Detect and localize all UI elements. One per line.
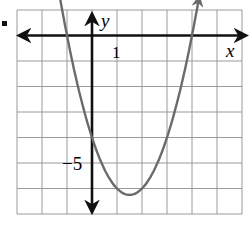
graph: x y 1 −5 [0, 0, 252, 225]
x-tick-label-1: 1 [112, 43, 121, 62]
axes [19, 14, 246, 212]
grid-lines [17, 10, 242, 214]
y-axis-label: y [99, 10, 110, 31]
x-axis-label: x [225, 40, 235, 61]
y-tick-label-neg5: −5 [62, 153, 82, 174]
